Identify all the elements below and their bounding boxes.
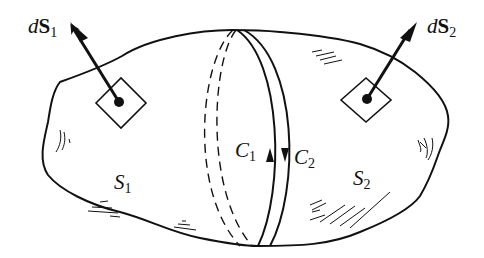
label-s1: S1 (114, 172, 132, 196)
label-ds1: dS1 (28, 16, 57, 40)
c2-down-arrow-icon (281, 148, 289, 162)
curve-c2 (244, 30, 289, 246)
surface-diagram: dS1 dS2 S1 S2 C1 C2 (0, 0, 484, 258)
label-c2: C2 (294, 147, 315, 171)
label-ds2: dS2 (427, 16, 456, 40)
ds2-arrowhead-icon (400, 22, 417, 42)
label-c1: C1 (235, 140, 256, 164)
diagram-canvas (0, 0, 484, 258)
ds1-arrowhead-icon (70, 22, 88, 42)
c1-up-arrow-icon (266, 148, 274, 162)
label-s2: S2 (353, 168, 371, 192)
